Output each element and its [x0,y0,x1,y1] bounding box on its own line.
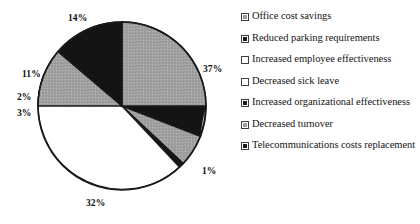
pie-value-label-1: 1% [202,166,216,177]
legend-swatch-icon [241,56,249,64]
legend-item-decreased-turnover[interactable]: Decreased turnover [241,118,420,131]
pie-value-label-37: 37% [203,64,222,75]
legend-item-decreased-sick-leave[interactable]: Decreased sick leave [241,75,420,88]
legend-item-label: Decreased sick leave [252,75,339,88]
legend-item-reduced-parking-requirements[interactable]: Reduced parking requirements [241,32,420,45]
pie-value-label-3: 3% [17,108,31,119]
legend-swatch-icon [241,13,249,21]
legend-swatch-icon [241,142,249,150]
pie-chart-figure: 37% 1% 32% 3% 2% 11% 14% Office cost sav… [0,0,420,224]
legend: Office cost savings Reduced parking requ… [241,10,420,161]
pie-value-label-14: 14% [68,13,87,24]
legend-item-office-cost-savings[interactable]: Office cost savings [241,10,420,23]
legend-item-telecommunications-costs-replacement[interactable]: Telecommunications costs replacement [241,139,420,152]
legend-item-label: Telecommunications costs replacement [252,139,415,152]
legend-swatch-icon [241,78,249,86]
legend-item-increased-employee-effectiveness[interactable]: Increased employee effectiveness [241,53,420,66]
legend-item-label: Increased organizational effectiveness [252,96,410,109]
legend-item-label: Increased employee effectiveness [252,53,391,66]
legend-item-label: Reduced parking requirements [252,32,379,45]
legend-swatch-icon [241,121,249,129]
pie-value-label-2: 2% [17,92,31,103]
legend-item-increased-organizational-effectiveness[interactable]: Increased organizational effectiveness [241,96,420,109]
legend-swatch-icon [241,99,249,107]
legend-swatch-icon [241,35,249,43]
legend-item-label: Office cost savings [252,10,331,23]
legend-item-label: Decreased turnover [252,118,333,131]
pie-plot-area: 37% 1% 32% 3% 2% 11% 14% [0,0,228,224]
pie-value-label-11: 11% [22,69,41,80]
pie-svg [0,0,228,224]
pie-value-label-32: 32% [86,198,105,209]
